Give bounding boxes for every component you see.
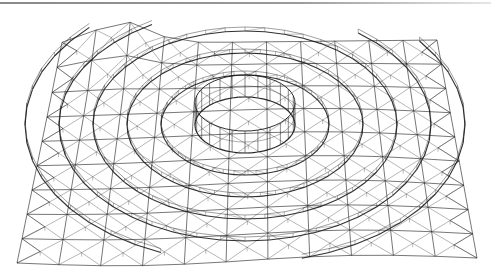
outer-grid xyxy=(17,22,477,265)
wireframe-figure xyxy=(0,0,491,279)
space-frame-mesh xyxy=(0,0,491,279)
central-opening xyxy=(195,75,295,153)
